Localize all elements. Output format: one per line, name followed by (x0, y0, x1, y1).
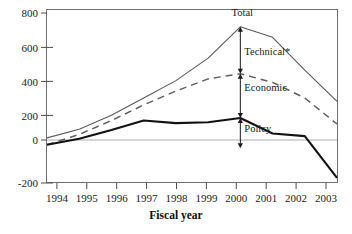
x-tick-label-1996: 1996 (106, 192, 129, 204)
x-tick-label-2003: 2003 (315, 192, 338, 204)
x-tick-label-2002: 2002 (285, 192, 307, 204)
x-tick-label-2000: 2000 (225, 192, 248, 204)
x-tick-label-1999: 1999 (195, 192, 218, 204)
x-tick-label-2001: 2001 (255, 192, 277, 204)
y-tick-label-neg200: -200 (18, 177, 39, 189)
chart-figure: 800 600 400 200 0 -200 1994 1995 1996 19… (0, 0, 352, 234)
x-axis-title: Fiscal year (149, 209, 202, 222)
y-tick-label-0: 0 (33, 134, 39, 146)
annotation-label-technical: Technical* (244, 46, 290, 57)
y-tick-label-200: 200 (22, 110, 39, 122)
x-tick-label-1997: 1997 (136, 192, 159, 204)
annotation-label-policy: Policy (244, 123, 272, 134)
x-tick-label-1995: 1995 (76, 192, 99, 204)
line-chart-svg: 800 600 400 200 0 -200 1994 1995 1996 19… (0, 0, 352, 234)
annotation-label-total: Total (232, 7, 254, 18)
y-tick-label-800: 800 (22, 7, 39, 19)
y-tick-label-400: 400 (22, 76, 39, 88)
annotation-label-economic: Economic (244, 82, 287, 93)
x-tick-label-1998: 1998 (166, 192, 189, 204)
x-tick-label-1994: 1994 (46, 192, 69, 204)
y-tick-label-600: 600 (22, 42, 39, 54)
